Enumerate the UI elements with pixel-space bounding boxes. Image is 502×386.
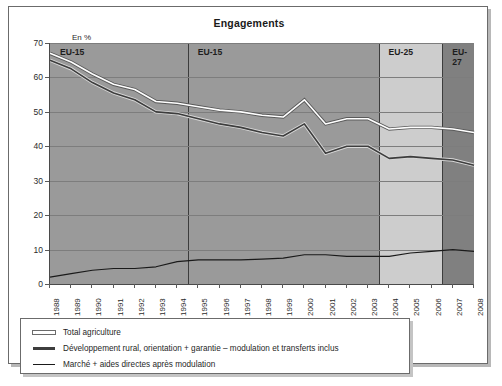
x-tick-2003 — [367, 284, 368, 288]
chart-card: Engagements En % EU-15EU-15EU-25EU-27 19… — [8, 6, 488, 364]
y-tick-label-70: 70 — [11, 38, 43, 48]
x-tick-1994 — [176, 284, 177, 288]
y-tick-label-20: 20 — [11, 210, 43, 220]
y-tick-30 — [45, 181, 49, 182]
series-line-2 — [50, 250, 474, 278]
plot-area: EU-15EU-15EU-25EU-27 — [49, 43, 473, 284]
x-tick-1992 — [134, 284, 135, 288]
legend-swatch-1 — [33, 347, 55, 350]
x-tick-1999 — [282, 284, 283, 288]
x-tick-label-2006: 2006 — [434, 298, 443, 316]
x-tick-1996 — [219, 284, 220, 288]
x-tick-2004 — [388, 284, 389, 288]
x-tick-2000 — [303, 284, 304, 288]
legend-item-2: Marché + aides directes après modulation — [33, 360, 215, 369]
y-tick-20 — [45, 215, 49, 216]
y-axis-unit-label: En % — [72, 33, 91, 42]
x-tick-label-2005: 2005 — [412, 298, 421, 316]
x-tick-1991 — [113, 284, 114, 288]
x-tick-2001 — [325, 284, 326, 288]
x-tick-label-2002: 2002 — [349, 298, 358, 316]
series-outline-1 — [50, 60, 474, 165]
x-tick-1997 — [240, 284, 241, 288]
x-tick-label-1989: 1989 — [73, 298, 82, 316]
y-tick-70 — [45, 43, 49, 44]
x-tick-2007 — [452, 284, 453, 288]
y-tick-60 — [45, 77, 49, 78]
x-tick-label-1999: 1999 — [285, 298, 294, 316]
legend-label-2: Marché + aides directes après modulation — [63, 360, 215, 369]
y-tick-label-50: 50 — [11, 107, 43, 117]
legend-item-0: Total agriculture — [33, 328, 121, 337]
x-tick-label-2004: 2004 — [391, 298, 400, 316]
y-tick-0 — [45, 284, 49, 285]
x-tick-label-1995: 1995 — [200, 298, 209, 316]
legend-item-1: Développement rural, orientation + garan… — [33, 344, 339, 353]
legend-label-1: Développement rural, orientation + garan… — [63, 344, 339, 353]
x-tick-label-1990: 1990 — [94, 298, 103, 316]
chart-screenshot: Engagements En % EU-15EU-15EU-25EU-27 19… — [0, 0, 502, 386]
x-tick-1990 — [91, 284, 92, 288]
y-axis-line — [49, 43, 50, 284]
x-tick-1993 — [155, 284, 156, 288]
x-tick-1995 — [197, 284, 198, 288]
y-tick-label-40: 40 — [11, 141, 43, 151]
y-tick-label-60: 60 — [11, 72, 43, 82]
x-tick-label-2003: 2003 — [370, 298, 379, 316]
y-tick-label-10: 10 — [11, 245, 43, 255]
series-line-1 — [50, 60, 474, 165]
y-tick-label-30: 30 — [11, 176, 43, 186]
x-tick-label-2001: 2001 — [328, 298, 337, 316]
x-tick-1998 — [261, 284, 262, 288]
legend-swatch-0 — [33, 331, 55, 334]
x-tick-label-1998: 1998 — [264, 298, 273, 316]
x-tick-label-1991: 1991 — [116, 298, 125, 316]
x-tick-2006 — [431, 284, 432, 288]
legend-swatch-2 — [33, 364, 55, 365]
x-tick-label-2008: 2008 — [476, 298, 485, 316]
x-tick-2008 — [473, 284, 474, 288]
y-tick-40 — [45, 146, 49, 147]
x-tick-label-1992: 1992 — [137, 298, 146, 316]
series-layer — [50, 43, 474, 284]
x-tick-1988 — [49, 284, 50, 288]
legend-label-0: Total agriculture — [63, 328, 121, 337]
x-tick-label-1996: 1996 — [222, 298, 231, 316]
x-tick-label-1997: 1997 — [243, 298, 252, 316]
x-tick-label-2000: 2000 — [306, 298, 315, 316]
y-tick-label-0: 0 — [11, 279, 43, 289]
x-tick-label-1993: 1993 — [158, 298, 167, 316]
chart-legend: Total agricultureDéveloppement rural, or… — [20, 318, 410, 374]
x-tick-2005 — [409, 284, 410, 288]
x-tick-1989 — [70, 284, 71, 288]
x-tick-label-1988: 1988 — [52, 298, 61, 316]
y-tick-50 — [45, 112, 49, 113]
y-tick-10 — [45, 250, 49, 251]
x-tick-label-1994: 1994 — [179, 298, 188, 316]
x-tick-2002 — [346, 284, 347, 288]
chart-title: Engagements — [9, 17, 489, 29]
x-tick-label-2007: 2007 — [455, 298, 464, 316]
